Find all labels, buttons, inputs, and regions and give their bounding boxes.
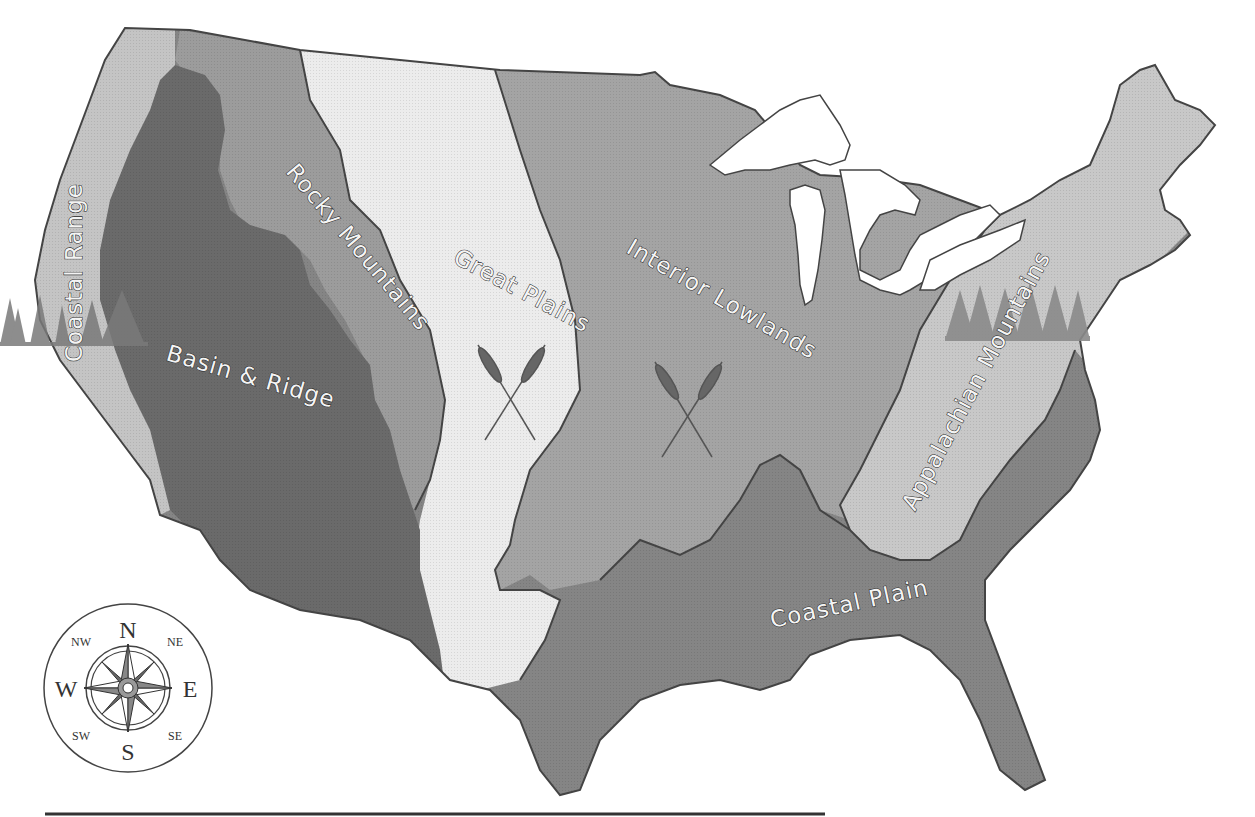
compass-e: E — [183, 676, 198, 702]
compass-nw: NW — [71, 635, 92, 649]
compass-sw: SW — [72, 729, 91, 743]
compass-ne: NE — [167, 635, 183, 649]
compass-n: N — [119, 617, 136, 643]
compass-w: W — [55, 676, 78, 702]
compass-s: S — [121, 739, 134, 765]
us-landform-map: Coastal Range Basin & Ridge Rocky Mounta… — [0, 0, 1255, 817]
label-coastal-range: Coastal Range — [61, 183, 87, 362]
compass-se: SE — [168, 729, 182, 743]
compass-rose-icon: N S E W NE NW SE SW — [44, 604, 212, 772]
